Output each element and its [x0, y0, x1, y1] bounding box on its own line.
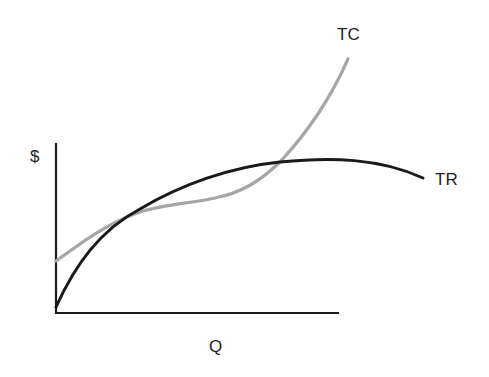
tr-label: TR — [435, 171, 458, 188]
tc-label: TC — [337, 26, 360, 43]
x-axis-label: Q — [209, 338, 222, 355]
chart-canvas — [0, 0, 489, 377]
tr-curve — [56, 159, 423, 307]
y-axis-label: $ — [30, 148, 39, 165]
